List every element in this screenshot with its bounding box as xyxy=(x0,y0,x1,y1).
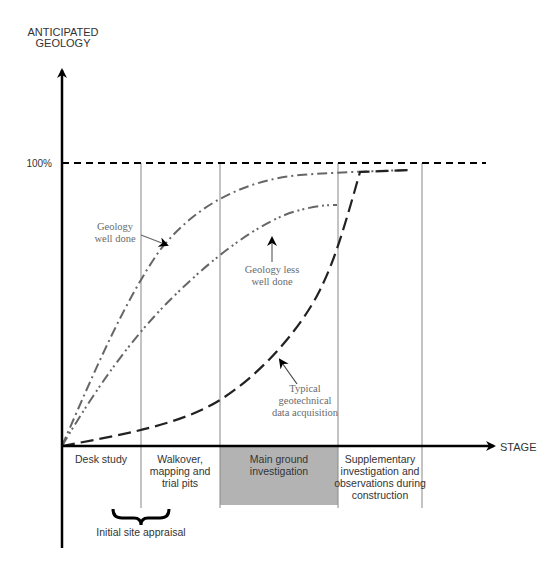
stage-main-ground-line2: investigation xyxy=(250,465,309,477)
stage-supplementary-line2: investigation and xyxy=(341,465,420,477)
label-typical-line3: data acquisition xyxy=(272,407,339,418)
curve-typical-data-acquisition xyxy=(62,170,411,446)
stage-supplementary-line4: construction xyxy=(352,489,409,501)
stage-walkover-line1: Walkover, xyxy=(157,453,203,465)
curly-brace-icon xyxy=(113,509,169,525)
curve-geology-well-done xyxy=(62,170,411,446)
curve-annotations: Geology well done Geology less well done… xyxy=(94,221,338,418)
arrow-typical-data-acquisition xyxy=(280,360,297,384)
stage-supplementary-line1: Supplementary xyxy=(345,453,416,465)
label-geology-well-done-line2: well done xyxy=(94,233,135,244)
stage-supplementary-line3: observations during xyxy=(334,477,426,489)
label-geology-well-done-line1: Geology xyxy=(97,221,134,232)
x-axis-title: STAGE xyxy=(500,441,536,453)
label-typical-line1: Typical xyxy=(289,383,320,394)
arrow-geology-well-done xyxy=(141,235,167,245)
label-geology-less-well-done-line1: Geology less xyxy=(245,264,300,275)
y-axis-title-line2: GEOLOGY xyxy=(35,37,91,49)
stage-desk-study: Desk study xyxy=(75,453,128,465)
brace-label: Initial site appraisal xyxy=(96,526,185,538)
stage-walkover-line3: trial pits xyxy=(162,477,198,489)
label-geology-less-well-done-line2: well done xyxy=(251,276,292,287)
geology-diagram: ANTICIPATED GEOLOGY 100% STAGE Desk stud… xyxy=(0,0,559,570)
stage-walkover-line2: mapping and xyxy=(150,465,211,477)
label-typical-line2: geotechnical xyxy=(278,395,331,406)
y-axis-max-tick: 100% xyxy=(26,158,52,169)
stage-main-ground-line1: Main ground xyxy=(250,453,309,465)
